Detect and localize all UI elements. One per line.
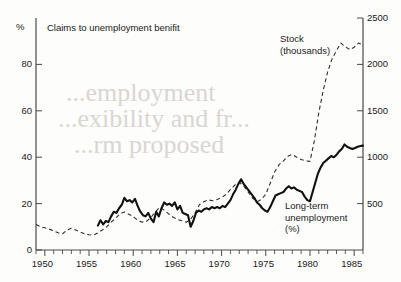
x-axis-tick-label: 1965	[164, 258, 185, 270]
annotation-ltu-line2: unemployment	[285, 212, 347, 224]
chart-title: Claims to unemployment benifit	[47, 22, 180, 34]
y-axis-left-tick-label: 80	[10, 58, 32, 70]
y-axis-right-ticks	[357, 18, 363, 204]
annotation-ltu-line3: (%)	[285, 223, 347, 235]
y-axis-left-tick-label: 40	[10, 151, 32, 163]
y-axis-right-tick-label: 2500	[367, 12, 388, 24]
chart-canvas	[0, 0, 401, 282]
y-axis-left-tick-label: 60	[10, 105, 32, 117]
y-axis-left-ticks	[36, 64, 42, 250]
y-axis-right-tick-label: 500	[367, 198, 383, 210]
x-axis-tick-label: 1975	[253, 258, 274, 270]
x-axis-tick-label: 1955	[76, 258, 97, 270]
x-axis-tick-label: 1970	[209, 258, 230, 270]
y-axis-left-unit: %	[16, 21, 24, 33]
annotation-stock: Stock (thousands)	[280, 33, 330, 56]
y-axis-right-tick-label: 1000	[367, 151, 388, 163]
annotation-stock-line2: (thousands)	[280, 45, 330, 57]
annotation-long-term-unemployment: Long-term unemployment (%)	[285, 200, 347, 235]
x-axis-tick-label: 1985	[341, 258, 362, 270]
y-axis-left-tick-label: 0	[10, 244, 32, 256]
y-axis-right-tick-label: 2000	[367, 58, 388, 70]
chart-figure: ...employment ...exibility and fr... ...…	[0, 0, 401, 282]
x-axis-tick-label: 1950	[32, 258, 53, 270]
annotation-ltu-line1: Long-term	[285, 200, 347, 212]
x-axis-tick-label: 1960	[120, 258, 141, 270]
annotation-stock-line1: Stock	[280, 33, 330, 45]
y-axis-right-tick-label: 1500	[367, 105, 388, 117]
x-axis-tick-label: 1980	[297, 258, 318, 270]
y-axis-left-tick-label: 20	[10, 198, 32, 210]
x-axis-ticks	[36, 250, 363, 256]
